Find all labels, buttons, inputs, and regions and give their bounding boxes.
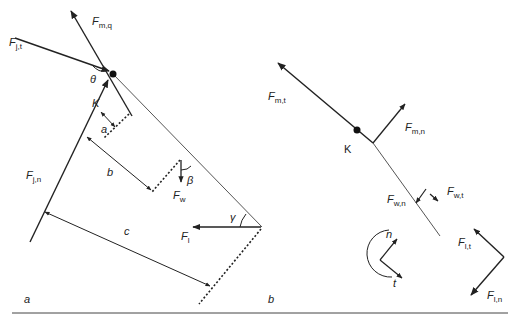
nt-axes-legend xyxy=(367,230,402,278)
label-fmt: Fm,t xyxy=(268,90,287,105)
label-axis-n: n xyxy=(386,228,392,240)
dimension-c xyxy=(45,212,210,286)
label-dist-c: c xyxy=(124,225,130,237)
label-axis-t: t xyxy=(393,277,397,289)
label-fw: Fw xyxy=(173,189,186,204)
label-k-b: K xyxy=(344,143,352,155)
label-dist-a: a xyxy=(101,123,107,135)
label-beta: β xyxy=(186,174,194,186)
dotted-c xyxy=(199,229,261,304)
label-theta: θ xyxy=(90,73,96,85)
force-fmn-arrow xyxy=(373,104,405,143)
label-fmn: Fm,n xyxy=(405,121,425,136)
point-k-b xyxy=(354,127,361,134)
dotted-b xyxy=(152,160,180,192)
panel-label-b: b xyxy=(268,293,274,305)
label-fwt: Fw,t xyxy=(447,185,464,200)
dimension-b xyxy=(87,137,151,190)
n-axis-arrow xyxy=(380,239,397,260)
limb-axis-b xyxy=(373,143,440,236)
limb-axis-a xyxy=(113,74,262,227)
gamma-angle-arc xyxy=(240,214,246,227)
panel-label-a: a xyxy=(24,293,30,305)
force-flt-arrow xyxy=(474,229,504,257)
label-fl: Fl xyxy=(181,230,190,245)
label-fln: Fl,n xyxy=(487,289,502,304)
force-fjt-arrow xyxy=(15,38,109,71)
label-fjn: Fj,n xyxy=(26,169,41,184)
panel-b: Fm,t K Fm,n Fw,n Fw,t Fl,t Fl,n n t b xyxy=(268,63,504,305)
force-fwn-arrow xyxy=(416,189,426,203)
label-gamma: γ xyxy=(230,211,237,223)
label-fmq: Fm,q xyxy=(92,15,112,30)
label-dist-b: b xyxy=(107,166,113,178)
label-flt: Fl,t xyxy=(458,236,472,251)
panel-a: Fj,t Fm,q θ K a b Fj,n β Fw γ Fl c a xyxy=(9,11,262,305)
point-k-a xyxy=(110,71,117,78)
label-k-a: K xyxy=(92,97,100,109)
dotted-a xyxy=(104,114,129,138)
force-fwt-arrow xyxy=(430,194,438,201)
t-axis-arrow xyxy=(380,260,402,278)
label-fwn: Fw,n xyxy=(387,193,406,208)
beta-angle-arc xyxy=(181,166,191,170)
free-body-diagram: Fj,t Fm,q θ K a b Fj,n β Fw γ Fl c a xyxy=(0,0,519,317)
